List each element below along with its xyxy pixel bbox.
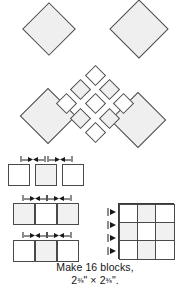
small-diamond-r3-c2 <box>70 108 91 129</box>
nine-patch-block <box>118 203 174 259</box>
strip-row-2-dark-light-dark <box>0 203 100 225</box>
strip-row-3-light-dark-light-press-arrows-1 <box>22 231 48 239</box>
nine-patch-cell-r2-c3 <box>155 222 175 242</box>
nine-patch-cell-r3-c1 <box>119 240 139 260</box>
strip-row-1-cut-squares-press-arrows-2 <box>47 155 73 163</box>
medallion-diagram <box>0 0 190 158</box>
strip-piecing-diagram <box>0 158 100 258</box>
strip-row-1-cut-squares <box>0 164 100 186</box>
nine-patch-cell-r1-c2 <box>137 204 157 224</box>
strip-row-1-cut-squares-square-2 <box>35 164 57 186</box>
large-diamond-top-left <box>22 2 76 56</box>
large-diamond-top-right <box>109 0 168 59</box>
nine-patch-cell-r2-c1 <box>119 222 139 242</box>
small-diamond-r2-c2 <box>84 93 105 114</box>
caption-line-2: 2⅜" × 2⅜". <box>0 274 190 287</box>
strip-row-3-light-dark-light-square-3 <box>57 240 79 262</box>
strip-row-2-dark-light-dark-square-1 <box>13 203 35 225</box>
strip-row-3-light-dark-light-square-1 <box>13 240 35 262</box>
strip-row-3-light-dark-light <box>0 240 100 262</box>
nine-patch-cell-r3-c3 <box>155 240 175 260</box>
nine-patch-cell-r2-c2 <box>137 222 157 242</box>
strip-row-2-dark-light-dark-press-arrows-2 <box>46 194 72 202</box>
strip-row-2-dark-light-dark-square-3 <box>57 203 79 225</box>
strip-row-3-light-dark-light-press-arrows-2 <box>46 231 72 239</box>
nine-patch-cell-r1-c3 <box>155 204 175 224</box>
nine-patch-cell-r1-c1 <box>119 204 139 224</box>
strip-row-2-dark-light-dark-square-2 <box>35 203 57 225</box>
multiplication-sign: × <box>90 274 96 286</box>
strip-row-3-light-dark-light-square-2 <box>35 240 57 262</box>
small-diamond-r1-c2 <box>99 79 120 100</box>
caption: Make 16 blocks, 2⅜" × 2⅜". <box>0 261 190 287</box>
small-diamond-r1-c1 <box>84 64 105 85</box>
block-height-measure: 2⅜". <box>100 274 119 286</box>
strip-row-1-cut-squares-square-3 <box>62 164 84 186</box>
small-diamond-r3-c3 <box>84 122 105 143</box>
strip-row-1-cut-squares-press-arrows-1 <box>20 155 46 163</box>
strip-row-1-cut-squares-square-1 <box>8 164 30 186</box>
small-diamond-r2-c1 <box>70 79 91 100</box>
caption-line-1: Make 16 blocks, <box>56 261 133 273</box>
nine-patch-cell-r3-c2 <box>137 240 157 260</box>
strip-row-2-dark-light-dark-press-arrows-1 <box>22 194 48 202</box>
block-width-measure: 2⅜" <box>71 274 87 286</box>
seam-direction-arrows-vertical <box>107 205 118 257</box>
